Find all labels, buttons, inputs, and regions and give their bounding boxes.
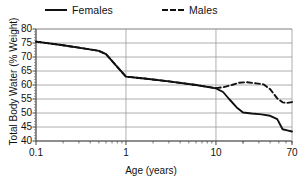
plot-area: [0, 0, 302, 186]
chart-figure: Females Males Total Body Water (% Weight…: [0, 0, 302, 186]
